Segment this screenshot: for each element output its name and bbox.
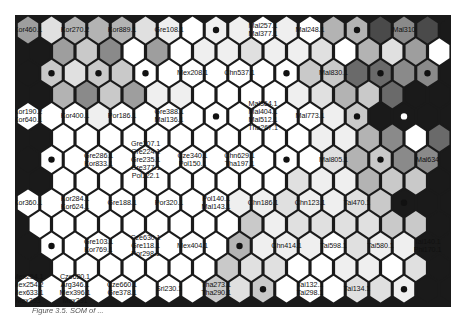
node-label: Gre107.1 Gre224.1 Gre235.1 Gre377.1 Pol1… bbox=[131, 140, 160, 180]
hex-cell bbox=[441, 276, 451, 303]
node-label: Mal805.1 bbox=[319, 156, 348, 164]
hex-cell bbox=[147, 38, 167, 65]
hex-cell bbox=[194, 125, 214, 152]
som-hex-map: Kor460.1Kor270.2Kor889.1Gre108.1Mal257.1… bbox=[15, 15, 451, 307]
hex-cell bbox=[335, 81, 355, 108]
node-label: Mex254.1 Mex254.2 Mex633.1 Mex393 bbox=[15, 273, 43, 305]
hex-cell bbox=[171, 254, 191, 281]
hex-cell bbox=[441, 146, 451, 173]
hex-cell bbox=[65, 233, 85, 260]
empty-node-dot bbox=[377, 156, 383, 162]
hex-cell bbox=[382, 254, 402, 281]
node-label: Tai580.1 bbox=[367, 242, 393, 250]
node-label: Kor460.1 bbox=[15, 26, 42, 34]
node-label: Tai132.1 Tai298.1 bbox=[297, 281, 323, 297]
hex-cell bbox=[41, 103, 61, 130]
hex-cell bbox=[441, 17, 451, 44]
node-label: Chn629.1 Tha197.1 bbox=[224, 152, 254, 168]
node-label: Tha273.1 Tha290.1 bbox=[201, 281, 231, 297]
hex-cell bbox=[382, 38, 402, 65]
hex-cell bbox=[359, 168, 379, 195]
hex-cell bbox=[441, 189, 451, 216]
hex-cell bbox=[30, 168, 50, 195]
node-label: Mal310 bbox=[393, 26, 416, 34]
hex-cell bbox=[100, 38, 120, 65]
hex-cell bbox=[335, 38, 355, 65]
hex-cell bbox=[88, 276, 108, 303]
hex-cell bbox=[77, 81, 97, 108]
hex-cell bbox=[406, 254, 426, 281]
hex-cell bbox=[406, 211, 426, 238]
hex-cell bbox=[241, 211, 261, 238]
node-label: Cze660.1 Gre378.1 bbox=[107, 281, 137, 297]
hex-cell bbox=[171, 168, 191, 195]
empty-node-dot bbox=[401, 200, 407, 206]
hex-cell bbox=[112, 146, 132, 173]
hex-cell bbox=[241, 38, 261, 65]
hex-cell bbox=[135, 189, 155, 216]
hex-cell bbox=[218, 168, 238, 195]
node-label: Gre388.1 Mal136.1 bbox=[154, 108, 183, 124]
node-label: Gre188.1 bbox=[107, 199, 136, 207]
hex-cell bbox=[429, 254, 449, 281]
hex-cell bbox=[18, 146, 38, 173]
empty-node-dot bbox=[48, 243, 54, 249]
hex-cell bbox=[147, 81, 167, 108]
hex-cell bbox=[312, 168, 332, 195]
empty-node-dot bbox=[142, 70, 148, 76]
empty-node-dot bbox=[354, 27, 360, 33]
hex-cell bbox=[206, 60, 226, 87]
hex-cell bbox=[382, 125, 402, 152]
node-label: Mal248.1 bbox=[296, 26, 325, 34]
hex-cell bbox=[100, 254, 120, 281]
hex-cell bbox=[359, 38, 379, 65]
node-label: Tai134.1 bbox=[344, 285, 370, 293]
figure-caption: Figure 3.5. SOM of ... bbox=[32, 306, 104, 315]
node-label: Mal257.1 Mal377.1 bbox=[249, 22, 278, 38]
hex-cell bbox=[18, 60, 38, 87]
node-label: Chn186.1 bbox=[248, 199, 278, 207]
hex-cell bbox=[112, 233, 132, 260]
hex-cell bbox=[53, 211, 73, 238]
hex-cell bbox=[77, 211, 97, 238]
hex-cell bbox=[53, 125, 73, 152]
hex-cell bbox=[406, 38, 426, 65]
node-label: Cze340.1 Pol150.1 bbox=[178, 152, 208, 168]
hex-cell bbox=[370, 189, 390, 216]
empty-node-dot bbox=[354, 113, 360, 119]
hex-cell bbox=[30, 125, 50, 152]
hex-cell bbox=[441, 233, 451, 260]
empty-node-dot bbox=[283, 70, 289, 76]
hex-cell bbox=[417, 189, 437, 216]
node-label: Cze630.1 Gre118.1 Por298.1 bbox=[131, 234, 161, 258]
hex-cell bbox=[218, 38, 238, 65]
hex-cell bbox=[312, 211, 332, 238]
hex-cell bbox=[335, 168, 355, 195]
hex-cell bbox=[88, 189, 108, 216]
node-label: Kor400.1 bbox=[61, 112, 89, 120]
hex-cell bbox=[265, 168, 285, 195]
hex-cell bbox=[124, 81, 144, 108]
hex-cell bbox=[417, 276, 437, 303]
node-label: Kor360.1 bbox=[15, 199, 42, 207]
node-label: Sri230.1 bbox=[156, 285, 182, 293]
hex-cell bbox=[312, 81, 332, 108]
hex-cell bbox=[53, 81, 73, 108]
node-label: Mal830.1 bbox=[319, 69, 348, 77]
hex-cell bbox=[370, 276, 390, 303]
hex-cell bbox=[347, 60, 367, 87]
hex-cell bbox=[300, 60, 320, 87]
hex-cell bbox=[300, 233, 320, 260]
hex-cell bbox=[30, 81, 50, 108]
hex-cell bbox=[30, 38, 50, 65]
hex-cell bbox=[335, 254, 355, 281]
node-label: Pol140.1 Mal143.1 bbox=[202, 195, 231, 211]
hex-cell bbox=[417, 17, 437, 44]
hex-cell bbox=[335, 211, 355, 238]
hex-cell bbox=[135, 17, 155, 44]
hex-cell bbox=[194, 81, 214, 108]
node-label: Chn414.1 bbox=[271, 242, 301, 250]
node-label: Tai140.1 Phi170.1 bbox=[414, 238, 442, 254]
hex-cell bbox=[288, 168, 308, 195]
hex-cell bbox=[288, 38, 308, 65]
